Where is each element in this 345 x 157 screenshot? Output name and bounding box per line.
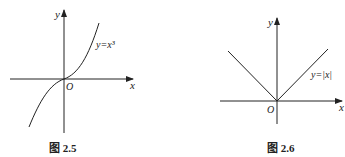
function-label: y=x³ [95, 39, 116, 50]
function-label: y=|x| [310, 69, 332, 80]
y-axis-label: y [267, 16, 273, 28]
caption-fig-2-5: 图 2.5 [49, 139, 77, 155]
origin-label: O [66, 81, 73, 92]
y-axis-label: y [54, 8, 60, 20]
x-axis-label: x [129, 79, 135, 91]
x-axis-label: x [338, 101, 344, 113]
caption-fig-2-6: 图 2.6 [267, 139, 295, 155]
figure-2-5: y x O y=x³ [10, 8, 135, 133]
figures-canvas: y x O y=x³ y x O y=|x| [0, 0, 345, 157]
figure-2-6: y x O y=|x| [220, 16, 344, 124]
origin-label: O [267, 104, 274, 115]
